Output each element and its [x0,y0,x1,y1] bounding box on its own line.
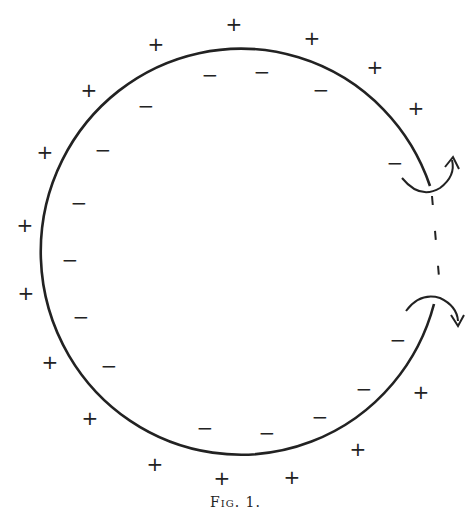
figure-diagram: ++++++++++++++++ −−−−−−−−−−−−−−− [0,0,471,526]
gap-dashed-line [432,196,441,300]
negative-charge: − [71,191,88,215]
negative-charge: − [95,138,112,162]
inner-negative-charges: −−−−−−−−−−−−−−− [62,60,407,445]
negative-charge: − [202,63,219,87]
positive-charge: + [42,350,59,374]
negative-charge: − [254,60,271,84]
negative-charge: − [312,405,329,429]
positive-charge: + [408,96,425,120]
positive-charge: + [18,281,35,305]
positive-charge: + [82,406,99,430]
outer-positive-charges: ++++++++++++++++ [17,12,430,490]
negative-charge: − [387,151,404,175]
negative-charge: − [313,78,330,102]
negative-charge: − [356,377,373,401]
positive-charge: + [17,213,34,237]
charged-ring-arc [41,49,434,455]
negative-charge: − [390,328,407,352]
positive-charge: + [367,55,384,79]
positive-charge: + [304,26,321,50]
positive-charge: + [148,32,165,56]
negative-charge: − [101,354,118,378]
positive-charge: + [284,465,301,489]
figure-caption: Fig. 1. [0,494,471,510]
positive-charge: + [413,380,430,404]
negative-charge: − [197,416,214,440]
positive-charge: + [226,12,243,36]
positive-charge: + [147,452,164,476]
positive-charge: + [214,466,231,490]
negative-charge: − [73,305,90,329]
negative-charge: − [259,421,276,445]
positive-charge: + [37,140,54,164]
negative-charge: − [138,94,155,118]
positive-charge: + [350,437,367,461]
upper-curved-arrow-icon [402,157,459,192]
lower-curved-arrow-icon [406,297,464,326]
negative-charge: − [62,248,79,272]
positive-charge: + [81,78,98,102]
